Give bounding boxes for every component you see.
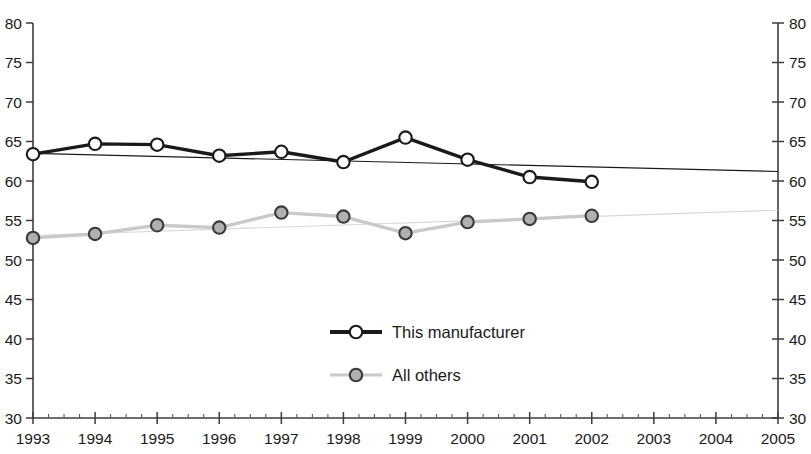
x-axis-tick-label: 2003 (637, 430, 671, 447)
chart-legend: This manufacturerAll others (330, 323, 525, 384)
data-point-marker (461, 153, 473, 165)
left-axis-tick-label: 75 (5, 54, 22, 71)
data-point-marker (27, 148, 39, 160)
trendlines (33, 153, 778, 235)
data-point-marker (151, 138, 163, 150)
right-y-axis: 8075706560555045403530 (772, 15, 807, 427)
data-point-marker (586, 210, 598, 222)
legend-label: This manufacturer (392, 323, 525, 341)
data-point-marker (337, 156, 349, 168)
x-axis-tick-label: 2000 (450, 430, 485, 447)
x-axis-tick-label: 1995 (140, 430, 174, 447)
right-axis-tick-label: 30 (789, 410, 807, 427)
data-point-marker (523, 171, 535, 183)
left-axis-tick-label: 70 (5, 94, 23, 111)
right-axis-tick-label: 40 (789, 331, 807, 348)
left-axis-tick-label: 50 (5, 252, 23, 269)
line-chart: 8075706560555045403530 80757065605550454… (0, 0, 811, 454)
data-point-marker (27, 232, 39, 244)
data-point-marker (523, 213, 535, 225)
left-axis-tick-label: 80 (5, 15, 23, 32)
x-axis-tick-label: 1996 (202, 430, 236, 447)
left-axis-tick-label: 40 (5, 331, 23, 348)
x-axis-tick-label: 2002 (575, 430, 609, 447)
x-axis-tick-label: 1997 (264, 430, 298, 447)
x-axis-tick-label: 1993 (16, 430, 50, 447)
right-axis-tick-label: 70 (789, 94, 807, 111)
chart-container: 8075706560555045403530 80757065605550454… (0, 0, 811, 454)
x-axis-tick-label: 1999 (388, 430, 422, 447)
data-point-marker (337, 210, 349, 222)
data-point-marker (151, 219, 163, 231)
right-axis-tick-label: 35 (789, 370, 806, 387)
legend-label: All others (392, 366, 461, 384)
left-axis-tick-label: 45 (5, 291, 22, 308)
data-point-marker (89, 228, 101, 240)
x-axis-tick-label: 1994 (78, 430, 113, 447)
right-axis-tick-label: 65 (789, 133, 806, 150)
data-point-marker (586, 176, 598, 188)
right-axis-tick-label: 80 (789, 15, 807, 32)
left-axis-tick-label: 55 (5, 212, 22, 229)
data-point-marker (213, 221, 225, 233)
data-point-marker (89, 138, 101, 150)
data-point-marker (399, 131, 411, 143)
right-axis-tick-label: 60 (789, 173, 807, 190)
data-series (27, 131, 598, 244)
x-axis-tick-label: 1998 (326, 430, 360, 447)
left-axis-tick-label: 30 (5, 410, 23, 427)
data-point-marker (213, 150, 225, 162)
data-point-marker (275, 206, 287, 218)
trendline (33, 153, 778, 171)
right-axis-tick-label: 75 (789, 54, 806, 71)
x-axis-tick-label: 2005 (761, 430, 795, 447)
right-axis-tick-label: 45 (789, 291, 806, 308)
right-axis-tick-label: 55 (789, 212, 806, 229)
left-y-axis: 8075706560555045403530 (5, 15, 33, 427)
data-point-marker (399, 227, 411, 239)
left-axis-tick-label: 35 (5, 370, 22, 387)
left-axis-tick-label: 60 (5, 173, 23, 190)
x-axis-tick-label: 2004 (699, 430, 734, 447)
data-point-marker (275, 146, 287, 158)
data-point-marker (461, 216, 473, 228)
legend-swatch-marker (350, 369, 362, 381)
x-axis-tick-label: 2001 (512, 430, 546, 447)
x-axis: 1993199419951996199719981999200020012002… (16, 412, 795, 447)
legend-swatch-marker (350, 326, 362, 338)
series-line (33, 213, 592, 238)
left-axis-tick-label: 65 (5, 133, 22, 150)
right-axis-tick-label: 50 (789, 252, 807, 269)
